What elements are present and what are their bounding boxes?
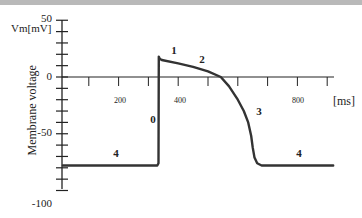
- phase-4-label-right: 4: [296, 148, 302, 159]
- x-tick-label-400: 400: [174, 97, 186, 105]
- phase-2-label: 2: [199, 54, 205, 65]
- action-potential-trace: [63, 57, 333, 166]
- x-tick-label-200: 200: [114, 97, 126, 105]
- action-potential-plot: [0, 0, 362, 218]
- phase-3-label: 3: [256, 106, 262, 117]
- phase-4-label-left: 4: [113, 148, 119, 159]
- y-unit-label: Vm[mV]: [11, 23, 51, 34]
- x-unit-label: [ms]: [333, 95, 355, 107]
- phase-1-label: 1: [171, 45, 177, 56]
- phase-0-label: 0: [150, 114, 156, 125]
- y-axis-title: Membrane voltage: [25, 66, 40, 156]
- x-tick-label-800: 800: [292, 97, 304, 105]
- y-tick-label-minus-100: -100: [22, 198, 52, 209]
- x-axis-ticks: [89, 77, 327, 86]
